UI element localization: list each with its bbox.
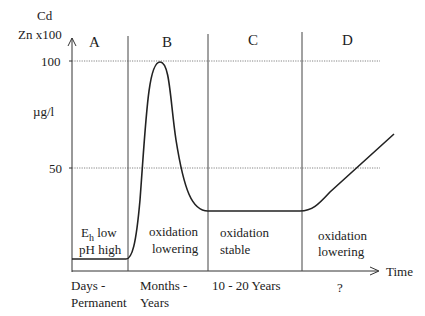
x-axis-label: Time (386, 264, 413, 279)
phase-a-time2: Permanent (71, 295, 127, 310)
phase-b-time1: Months - (140, 278, 187, 293)
phase-a-time1: Days - (71, 278, 105, 293)
phase-d-letter: D (342, 33, 353, 48)
phase-b-desc1: oxidation (149, 224, 198, 239)
y-label-cd: Cd (37, 8, 52, 23)
phase-d-desc2: lowering (318, 244, 364, 259)
diagram-canvas (0, 0, 425, 316)
phase-c-letter: C (248, 33, 258, 48)
phase-c-desc1: oxidation (220, 225, 269, 240)
y-tick-100: 100 (41, 54, 61, 69)
phase-b-time2: Years (140, 295, 169, 310)
y-unit: µg/l (33, 104, 54, 119)
phase-d-desc1: oxidation (318, 228, 367, 243)
y-label-zn: Zn x100 (18, 27, 62, 42)
phase-c-time1: 10 - 20 Years (212, 278, 281, 293)
y-tick-50: 50 (49, 161, 62, 176)
phase-a-desc2: pH high (79, 242, 121, 257)
phase-b-letter: B (162, 35, 172, 50)
phase-b-desc2: lowering (152, 241, 198, 256)
phase-a-letter: A (89, 35, 100, 50)
phase-c-desc2: stable (220, 242, 250, 257)
phase-d-time1: ? (337, 280, 343, 295)
